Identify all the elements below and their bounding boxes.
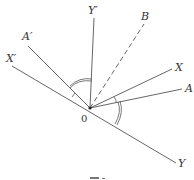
origin-point	[88, 106, 91, 109]
ray-yprime	[90, 18, 94, 108]
ray-a	[90, 89, 182, 108]
ray-aprime	[28, 46, 90, 108]
angle-tick-xprime-aprime	[72, 93, 75, 97]
line-xprime-y	[12, 66, 176, 163]
caption-fragment-2	[102, 178, 105, 179]
angle-arc-aprime-yprime	[70, 81, 92, 88]
label-b: B	[140, 10, 149, 23]
angle-arc-x-a	[114, 97, 116, 103]
label-y: Y	[178, 157, 187, 170]
label-x: X	[174, 61, 184, 74]
label-origin: 0	[81, 113, 87, 124]
label-a: A	[184, 82, 193, 95]
label-aprime: A′	[21, 30, 33, 43]
rotated-axes-diagram: Y′ B A′ X′ X A Y 0	[0, 0, 194, 180]
label-xprime: X′	[5, 52, 17, 65]
ray-x	[90, 69, 172, 108]
caption-fragment	[90, 177, 99, 179]
label-yprime: Y′	[88, 4, 98, 17]
